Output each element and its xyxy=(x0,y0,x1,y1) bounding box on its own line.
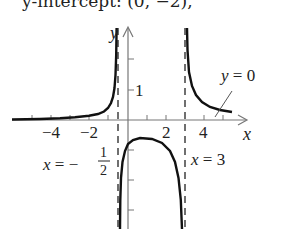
x-axis-label: x xyxy=(242,124,251,144)
v-asymptote-left-numerator: 1 xyxy=(100,145,107,160)
y-axis-label: y xyxy=(108,23,118,43)
y-ticks xyxy=(128,59,134,210)
tick-label-neg2: −2 xyxy=(80,123,98,142)
tick-label-neg4: −4 xyxy=(42,123,61,142)
v-asymptote-left-denominator: 2 xyxy=(100,163,107,178)
h-asymptote-label: y = 0 xyxy=(219,66,255,85)
curve-middle-branch xyxy=(120,138,182,229)
h-asymptote-pointer xyxy=(215,91,232,117)
v-asymptote-right-label: x = 3 xyxy=(190,150,225,169)
tick-label-y1: 1 xyxy=(135,81,144,100)
v-asymptote-left-label: x = − xyxy=(42,155,78,174)
tick-label-4: 4 xyxy=(199,123,208,142)
tick-label-2: 2 xyxy=(162,123,171,142)
curve-left-branch xyxy=(12,28,117,120)
graph: −4 −2 2 4 1 x y y = 0 x = − 1 2 x = 3 xyxy=(0,0,281,229)
